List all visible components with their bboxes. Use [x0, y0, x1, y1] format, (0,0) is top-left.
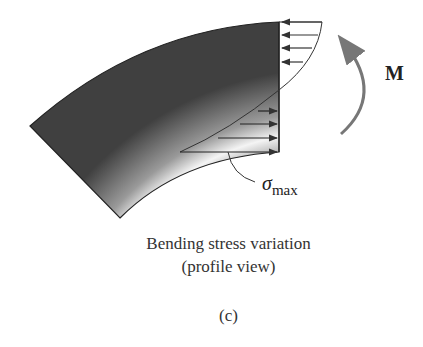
- moment-arrow: [341, 44, 364, 134]
- caption-line-1: Bending stress variation: [0, 234, 423, 254]
- panel-label: (c): [0, 306, 423, 326]
- bending-diagram: [0, 0, 423, 347]
- moment-label: M: [385, 62, 404, 85]
- sigma-subscript: max: [272, 182, 298, 198]
- caption-line-2: (profile view): [0, 257, 423, 277]
- sigma-symbol: σ: [262, 172, 272, 194]
- compression-arrows: [282, 22, 322, 62]
- curved-beam: [30, 22, 279, 218]
- sigma-max-label: σmax: [262, 172, 298, 199]
